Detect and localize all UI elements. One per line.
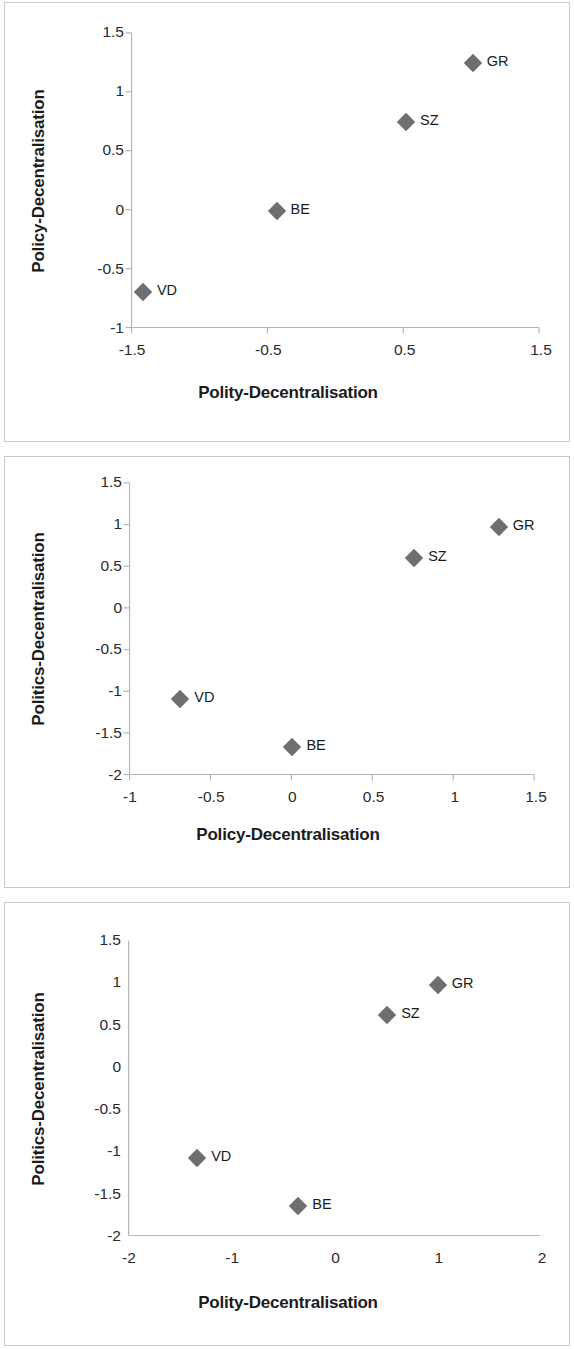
data-point-label: VD — [194, 689, 214, 705]
y-tick-label: 0 — [75, 1058, 121, 1076]
y-tick-label: -0.5 — [76, 640, 122, 658]
data-point-label: GR — [487, 53, 509, 69]
x-axis-title: Polity-Decentralisation — [5, 383, 571, 403]
x-tick-label: 1 — [425, 788, 485, 806]
y-tick-label: 0.5 — [78, 141, 124, 159]
data-point-label: GR — [513, 517, 535, 533]
x-tick-label: 1 — [409, 1249, 469, 1267]
x-axis-title: Polity-Decentralisation — [5, 1293, 571, 1313]
y-tick-label: -2 — [75, 1227, 121, 1245]
data-point-label: BE — [306, 737, 325, 753]
data-point-label: SZ — [401, 1005, 420, 1021]
y-tick-label: 0 — [78, 201, 124, 219]
y-axis-title: Policy-Decentralisation — [29, 89, 49, 272]
y-tick-label: 1.5 — [76, 473, 122, 491]
y-tick-label: -1 — [75, 1142, 121, 1160]
plot-area-1: -1-0.500.511.5-1.5-0.50.51.5VDBESZGRPoli… — [5, 3, 569, 441]
x-tick-label: -1.5 — [102, 341, 162, 359]
x-tick-label: 1.5 — [506, 788, 566, 806]
y-tick-label: 1 — [76, 515, 122, 533]
x-tick-label: 1.5 — [511, 341, 571, 359]
y-tick-label: 0.5 — [76, 557, 122, 575]
y-tick-label: 0.5 — [75, 1016, 121, 1034]
y-tick-label: -0.5 — [75, 1100, 121, 1118]
y-tick-label: 1 — [78, 82, 124, 100]
y-tick-label: -1 — [78, 319, 124, 337]
x-tick-label: 0 — [262, 788, 322, 806]
chart-panel-3: -2-1.5-1-0.500.511.5-2-1012BEVDSZGRPolit… — [4, 902, 570, 1346]
y-tick-label: 0 — [76, 599, 122, 617]
y-tick-label: -2 — [76, 766, 122, 784]
y-tick-label: 1.5 — [75, 931, 121, 949]
scatterplot-figure-stack: -1-0.500.511.5-1.5-0.50.51.5VDBESZGRPoli… — [0, 0, 574, 1349]
y-tick-label: -1.5 — [76, 724, 122, 742]
axes-chart-3 — [5, 903, 569, 1345]
data-point-label: SZ — [428, 548, 447, 564]
x-axis-title: Policy-Decentralisation — [5, 825, 571, 845]
y-tick-label: -0.5 — [78, 260, 124, 278]
y-axis-title: Politics-Decentralisation — [29, 532, 49, 725]
chart-panel-1: -1-0.500.511.5-1.5-0.50.51.5VDBESZGRPoli… — [4, 2, 570, 442]
data-point-label: BE — [291, 201, 310, 217]
x-tick-label: -0.5 — [238, 341, 298, 359]
plot-area-2: -2-1.5-1-0.500.511.5-1-0.500.511.5BEVDSZ… — [5, 457, 569, 887]
y-tick-label: 1.5 — [78, 23, 124, 41]
x-tick-label: -0.5 — [181, 788, 241, 806]
y-tick-label: 1 — [75, 973, 121, 991]
x-tick-label: -1 — [100, 788, 160, 806]
x-tick-label: 0.5 — [344, 788, 404, 806]
y-tick-label: -1 — [76, 682, 122, 700]
x-tick-label: -2 — [99, 1249, 159, 1267]
data-point-label: SZ — [420, 112, 439, 128]
plot-area-3: -2-1.5-1-0.500.511.5-2-1012BEVDSZGRPolit… — [5, 903, 569, 1345]
axes-chart-1 — [5, 3, 569, 441]
y-axis-title: Politics-Decentralisation — [29, 992, 49, 1185]
x-tick-label: -1 — [202, 1249, 262, 1267]
x-tick-label: 0 — [306, 1249, 366, 1267]
x-tick-label: 0.5 — [375, 341, 435, 359]
data-point-label: GR — [452, 975, 474, 991]
data-point-label: VD — [211, 1148, 231, 1164]
chart-panel-2: -2-1.5-1-0.500.511.5-1-0.500.511.5BEVDSZ… — [4, 456, 570, 888]
data-point-label: VD — [157, 282, 177, 298]
x-tick-label: 2 — [512, 1249, 572, 1267]
data-point-label: BE — [312, 1196, 331, 1212]
y-tick-label: -1.5 — [75, 1185, 121, 1203]
